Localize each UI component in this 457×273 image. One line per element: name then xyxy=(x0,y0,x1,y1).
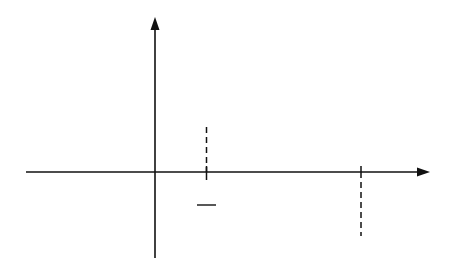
graph-svg xyxy=(0,0,457,273)
x-axis-arrow-icon xyxy=(417,168,430,177)
y-axis-arrow-icon xyxy=(151,17,160,30)
diagram-canvas xyxy=(0,0,457,273)
